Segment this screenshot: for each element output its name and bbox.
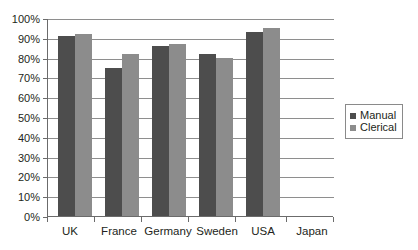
bar-manual[interactable]: [58, 36, 75, 216]
y-tick-label: 30%: [0, 152, 40, 163]
x-tick-label: Japan: [296, 226, 327, 238]
y-tick-label: 100%: [0, 14, 40, 25]
bar-group: [197, 18, 236, 216]
y-tick-label: 40%: [0, 132, 40, 143]
x-tick-label: France: [101, 226, 137, 238]
chart-legend: Manual Clerical: [345, 104, 403, 139]
y-tick-label: 0%: [0, 212, 40, 223]
x-tick-mark: [235, 217, 236, 222]
x-tick-label: UK: [62, 226, 78, 238]
bar-group: [103, 18, 142, 216]
bar-group: [244, 18, 283, 216]
bar-group: [150, 18, 189, 216]
legend-swatch-icon: [350, 113, 356, 119]
bar-clerical[interactable]: [75, 34, 92, 216]
legend-item-label: Clerical: [360, 122, 397, 133]
legend-item-clerical[interactable]: Clerical: [350, 122, 397, 133]
bar-manual[interactable]: [152, 46, 169, 216]
bar-clerical[interactable]: [216, 58, 233, 216]
x-tick-label: Sweden: [196, 226, 238, 238]
y-tick-label: 10%: [0, 192, 40, 203]
y-tick-label: 80%: [0, 53, 40, 64]
bar-chart: 100% 90% 80% 70% 60% 50% 40% 30% 20% 10%…: [0, 0, 418, 250]
x-tick-mark: [286, 217, 287, 222]
y-tick-label: 50%: [0, 113, 40, 124]
bar-clerical[interactable]: [122, 54, 139, 216]
y-tick-label: 70%: [0, 73, 40, 84]
bar-clerical[interactable]: [263, 28, 280, 216]
bar-manual[interactable]: [246, 32, 263, 216]
legend-swatch-icon: [350, 125, 356, 131]
bar-clerical[interactable]: [169, 44, 186, 216]
legend-item-manual[interactable]: Manual: [350, 110, 397, 121]
x-tick-mark: [333, 217, 334, 222]
bar-manual[interactable]: [105, 68, 122, 217]
bar-group: [291, 18, 330, 216]
plot-area: [47, 19, 333, 217]
x-tick-mark: [141, 217, 142, 222]
y-tick-label: 90%: [0, 33, 40, 44]
x-tick-label: USA: [251, 226, 275, 238]
bar-manual[interactable]: [199, 54, 216, 216]
x-tick-mark: [188, 217, 189, 222]
y-tick-label: 20%: [0, 172, 40, 183]
x-tick-mark: [47, 217, 48, 222]
bar-group: [56, 18, 95, 216]
legend-item-label: Manual: [360, 110, 396, 121]
y-tick-label: 60%: [0, 93, 40, 104]
x-tick-label: Germany: [144, 226, 191, 238]
x-tick-mark: [94, 217, 95, 222]
